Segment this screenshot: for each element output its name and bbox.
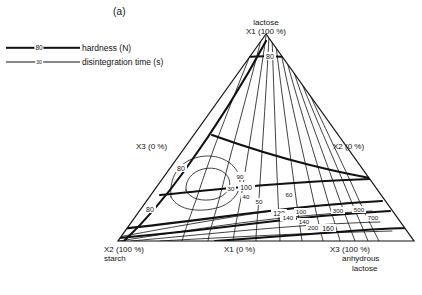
contour-group (119, 36, 414, 241)
svg-text:50: 50 (256, 198, 263, 205)
contour-label-hardness-100: 100 (238, 182, 255, 191)
disintegration-contours (119, 36, 392, 241)
svg-text:700: 700 (368, 214, 379, 221)
svg-text:200: 200 (308, 224, 319, 231)
svg-text:160: 160 (322, 225, 334, 232)
contour-label-dis-60: 60 (284, 191, 294, 198)
contour-label-hardness-90: 90 (235, 172, 246, 180)
svg-text:80: 80 (146, 206, 154, 213)
contour-label-dis-100: 100 (294, 208, 308, 215)
svg-text:140: 140 (283, 214, 294, 221)
contour-label-dis-200: 200 (306, 224, 320, 231)
ternary-triangle-outline (118, 34, 414, 241)
svg-text:300: 300 (333, 207, 344, 214)
contour-label-dis-300: 300 (331, 207, 345, 214)
contour-label-hardness-80-mid: 80 (175, 164, 187, 172)
contour-label-dis-50: 50 (254, 198, 264, 205)
contour-label-dis-40: 40 (241, 193, 251, 200)
svg-text:60: 60 (286, 191, 293, 198)
contour-label-dis-30: 30 (226, 185, 236, 192)
contour-label-hardness-80-apex: 80 (264, 52, 276, 60)
svg-text:40: 40 (243, 193, 250, 200)
contour-label-hardness-140: 140 (280, 213, 296, 221)
svg-text:100: 100 (296, 208, 307, 215)
contour-label-dis-700: 700 (366, 214, 380, 221)
svg-text:500: 500 (354, 206, 365, 213)
contour-label-hardness-80-low: 80 (144, 205, 156, 213)
contour-canvas: 80 80 80 90 100 120 140 160 30 40 50 60 … (0, 0, 422, 295)
contour-label-dis-500: 500 (352, 206, 366, 213)
svg-text:80: 80 (177, 165, 185, 172)
contour-label-hardness-160: 160 (320, 224, 336, 232)
contour-labels: 80 80 80 90 100 120 140 160 30 40 50 60 … (144, 52, 380, 232)
ternary-contour-figure: (a) 80 hardness (N) 30 disintegration ti… (0, 0, 422, 295)
svg-text:30: 30 (228, 185, 235, 192)
svg-text:100: 100 (240, 184, 252, 191)
svg-text:90: 90 (237, 173, 244, 180)
svg-text:80: 80 (266, 53, 274, 60)
